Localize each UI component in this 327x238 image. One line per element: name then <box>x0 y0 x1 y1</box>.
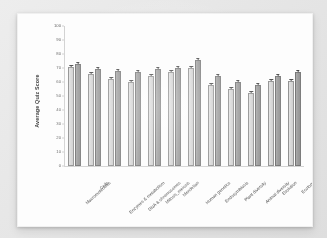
y-axis-tick-mark <box>62 40 64 41</box>
error-bar-cap-top <box>229 87 232 88</box>
bar-series-a <box>68 67 74 166</box>
error-bar-cap-top <box>96 67 99 68</box>
bar-series-b <box>235 82 241 166</box>
bar-series-b <box>295 72 301 166</box>
y-axis-tick-label: 50 <box>56 94 61 98</box>
error-bar-cap-top <box>156 67 159 68</box>
bar-group <box>268 26 281 166</box>
y-axis-tick-label: 90 <box>56 38 61 42</box>
bar-group <box>108 26 121 166</box>
error-bar-cap-top <box>169 70 172 71</box>
error-bar-cap-top <box>216 74 219 75</box>
bar-series-b <box>95 69 101 166</box>
error-bar-cap-top <box>289 79 292 80</box>
error-bar-cap-top <box>189 66 192 67</box>
bar-group <box>288 26 301 166</box>
bar-group <box>188 26 201 166</box>
bar-series-a <box>108 79 114 166</box>
bar-series-b <box>135 72 141 166</box>
error-bar-cap-top <box>109 77 112 78</box>
bar-series-a <box>268 81 274 166</box>
y-axis-tick-label: 80 <box>56 52 61 56</box>
chart-card: Average Quiz Score 010203040506070809010… <box>17 13 313 227</box>
y-axis-tick-mark <box>62 152 64 153</box>
bar-group <box>128 26 141 166</box>
bar-group <box>148 26 161 166</box>
error-bar-cap-top <box>296 70 299 71</box>
bar-series-a <box>148 76 154 166</box>
y-axis-tick-label: 60 <box>56 80 61 84</box>
bar-series-b <box>255 85 261 166</box>
y-axis-tick-mark <box>62 138 64 139</box>
bar-series-b <box>75 64 81 166</box>
bar-series-b <box>195 60 201 166</box>
bar-series-a <box>288 81 294 166</box>
bar-series-a <box>208 85 214 166</box>
bar-series-b <box>275 76 281 166</box>
y-axis-tick-label: 0 <box>59 164 61 168</box>
x-axis-line <box>64 166 304 167</box>
error-bar-cap-top <box>116 69 119 70</box>
error-bar-cap-top <box>149 74 152 75</box>
y-axis-tick-mark <box>62 166 64 167</box>
bar-group <box>168 26 181 166</box>
error-bar-cap-top <box>209 83 212 84</box>
bar-series-b <box>215 76 221 166</box>
bar-group <box>208 26 221 166</box>
error-bar-cap-top <box>76 62 79 63</box>
error-bar-cap-top <box>89 72 92 73</box>
y-axis-tick-label: 100 <box>54 24 61 28</box>
y-axis-tick-mark <box>62 110 64 111</box>
bar-group <box>68 26 81 166</box>
bar-series-a <box>128 82 134 166</box>
bar-group <box>88 26 101 166</box>
bar-group <box>248 26 261 166</box>
error-bar-cap-top <box>236 80 239 81</box>
bar-series-a <box>188 68 194 166</box>
y-axis-title: Average Quiz Score <box>34 41 40 161</box>
y-axis-tick-label: 30 <box>56 122 61 126</box>
y-axis-tick-mark <box>62 26 64 27</box>
screenshot-root: Average Quiz Score 010203040506070809010… <box>0 0 327 238</box>
bar-series-a <box>248 93 254 166</box>
plot-wrapper: Average Quiz Score 010203040506070809010… <box>18 14 312 226</box>
y-axis-tick-mark <box>62 54 64 55</box>
error-bar-cap-top <box>129 80 132 81</box>
bar-series-a <box>88 74 94 166</box>
x-axis-tick-label: Ecology <box>301 181 313 195</box>
error-bar-cap-top <box>276 74 279 75</box>
y-axis-tick-mark <box>62 96 64 97</box>
y-axis-tick-label: 40 <box>56 108 61 112</box>
y-axis-tick-label: 20 <box>56 136 61 140</box>
error-bar-cap-top <box>249 91 252 92</box>
error-bar-cap-top <box>69 65 72 66</box>
y-axis-tick-mark <box>62 82 64 83</box>
bar-series-a <box>168 72 174 166</box>
error-bar-cap-top <box>176 66 179 67</box>
y-axis-tick-label: 70 <box>56 66 61 70</box>
y-axis-tick-label: 10 <box>56 150 61 154</box>
y-axis-tick-mark <box>62 68 64 69</box>
bar-series-b <box>115 71 121 166</box>
bar-series-b <box>175 68 181 166</box>
y-axis-tick-mark <box>62 124 64 125</box>
bar-series-b <box>155 69 161 166</box>
bar-group <box>228 26 241 166</box>
plot-area: 0102030405060708090100MacromoleculesCell… <box>64 26 304 166</box>
bar-series-a <box>228 89 234 166</box>
error-bar-cap-top <box>256 83 259 84</box>
error-bar-cap-top <box>196 58 199 59</box>
error-bar-cap-top <box>269 79 272 80</box>
error-bar-cap-top <box>136 70 139 71</box>
